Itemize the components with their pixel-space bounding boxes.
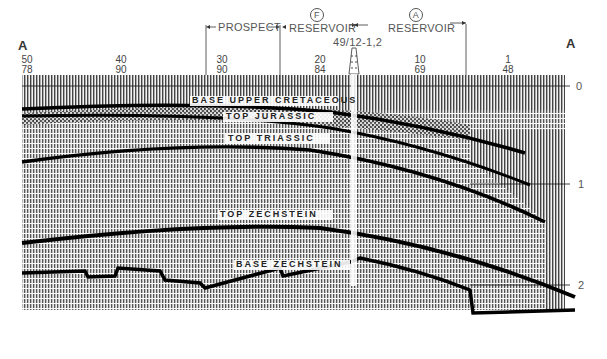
label-top-jurassic: TOP JURASSIC	[226, 111, 316, 121]
shotpoint: 1069	[405, 55, 435, 75]
marker-a: A	[409, 8, 423, 22]
shotpoint: 4090	[106, 55, 136, 75]
label-top-triassic: TOP TRIASSIC	[228, 133, 315, 143]
shotpoint: 2084	[305, 55, 335, 75]
label-base-zechstein: BASE ZECHSTEIN	[236, 259, 343, 269]
well-derrick-icon	[349, 48, 359, 74]
zone-prospect: PROSPECT	[218, 21, 281, 33]
well-name: 49/12-1,2	[333, 36, 382, 48]
time-tick-2: 2	[578, 279, 584, 291]
zone-reservoir-a: A RESERVOIR	[388, 8, 444, 34]
section-end-left: A	[18, 38, 27, 53]
time-tick-0: 0	[576, 80, 582, 92]
seismic-section	[0, 0, 607, 359]
marker-f: F	[310, 8, 324, 22]
section-end-right: A	[566, 36, 575, 51]
label-base-upper-cretaceous: BASE UPPER CRETACEOUS	[192, 95, 357, 105]
shotpoint: 148	[493, 55, 523, 75]
time-tick-1: 1	[578, 178, 584, 190]
shotpoint: 3090	[207, 55, 237, 75]
label-top-zechstein: TOP ZECHSTEIN	[220, 209, 318, 219]
zone-reservoir-f: F RESERVOIR	[289, 8, 345, 34]
shotpoint: 5078	[12, 55, 42, 75]
